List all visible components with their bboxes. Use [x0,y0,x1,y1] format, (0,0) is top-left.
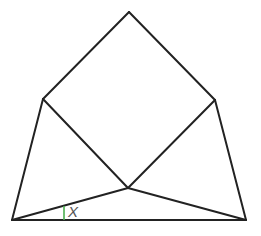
edge-right-center [128,100,215,188]
diagram-edges [12,12,246,220]
edge-left-bottom-left [12,99,43,220]
edge-top-left [43,12,129,99]
edge-left-center [43,99,128,188]
edge-right-bottom-right [215,100,246,220]
edge-center-bottom-right [128,188,246,220]
angle-x-label: X [67,203,79,220]
geometry-diagram: X [0,0,261,236]
edge-top-right [129,12,215,100]
